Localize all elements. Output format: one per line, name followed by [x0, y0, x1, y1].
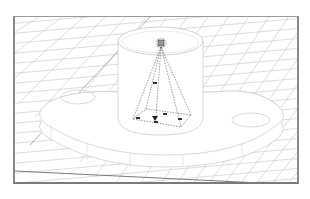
scene-canvas[interactable]	[15, 17, 299, 184]
ground-edge-lower	[15, 171, 299, 184]
3d-viewport[interactable]	[13, 16, 299, 184]
